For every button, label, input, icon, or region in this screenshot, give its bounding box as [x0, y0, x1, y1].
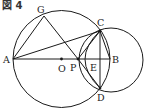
label-o: O: [58, 63, 66, 74]
label-d: D: [97, 92, 105, 103]
label-b: B: [112, 54, 119, 65]
label-e: E: [90, 62, 97, 73]
segment-gp: [44, 16, 78, 59]
label-g: G: [37, 4, 45, 15]
dot-o: [60, 58, 63, 61]
label-a: A: [2, 54, 10, 65]
geometry-diagram: G C A O P E B D: [0, 0, 146, 112]
dot-c: [99, 30, 102, 33]
label-p: P: [70, 62, 77, 73]
dot-d: [99, 87, 102, 90]
dot-p: [77, 58, 80, 61]
segment-pc: [78, 31, 100, 59]
circle-right: [79, 28, 143, 92]
segment-cb: [100, 31, 110, 59]
label-c: C: [97, 17, 104, 28]
segment-ac: [13, 31, 100, 59]
